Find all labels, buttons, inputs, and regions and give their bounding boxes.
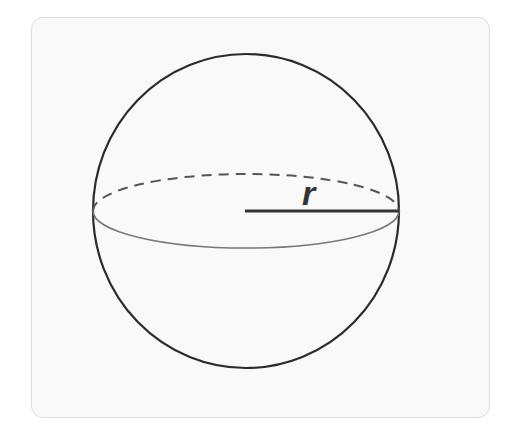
equator-back-dashed <box>93 174 399 211</box>
equator-front <box>93 211 399 248</box>
radius-label: r <box>302 176 315 210</box>
sphere-diagram <box>0 0 514 437</box>
